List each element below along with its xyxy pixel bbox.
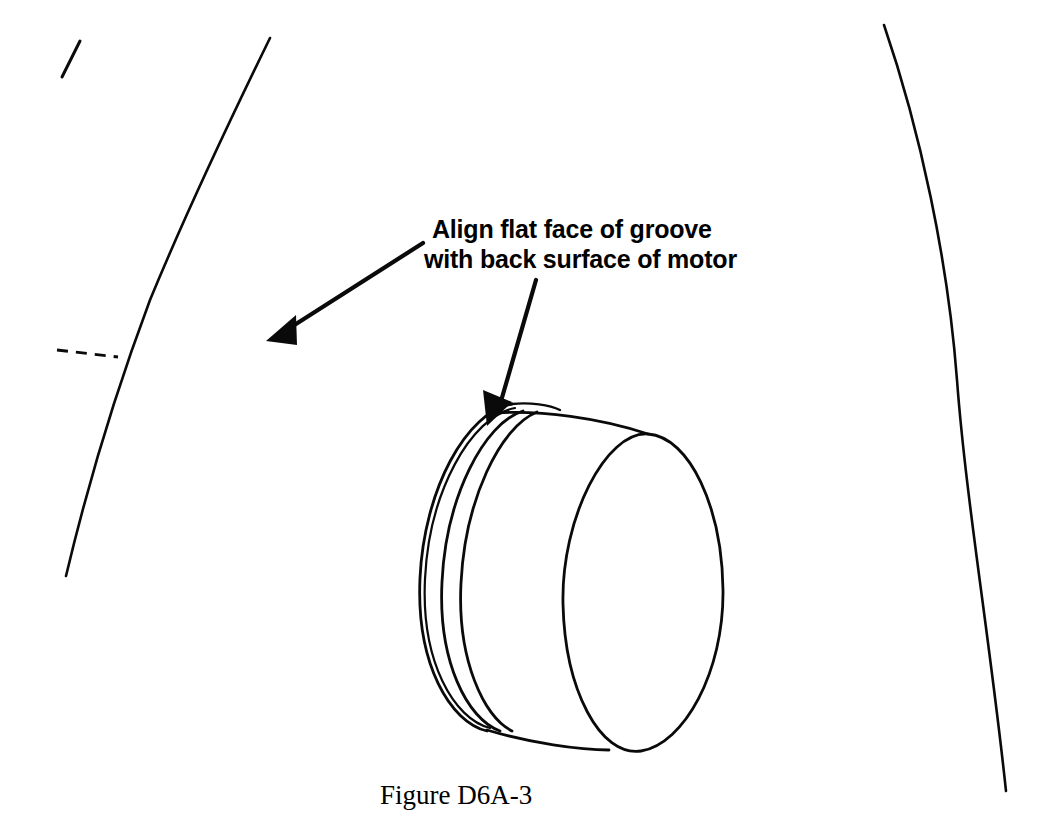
arrow-to-motor-back-surface xyxy=(266,243,423,345)
annotation-line-1: Align flat face of groove xyxy=(432,214,712,244)
motor-tick-mark xyxy=(62,41,80,77)
figure-page: Align flat face of groove with back surf… xyxy=(0,0,1053,823)
motor-body-right-outline xyxy=(884,25,1006,791)
motor-body-left-outline xyxy=(66,38,270,576)
annotation-line-2: with back surface of motor xyxy=(424,244,737,274)
motor-centerline-dash xyxy=(57,350,118,357)
groove-arc-outer xyxy=(420,404,512,731)
collar-front-face xyxy=(563,434,723,751)
collar-bottom-edge xyxy=(487,730,609,750)
groove-arc-inner xyxy=(461,412,537,731)
motor-housing-outlines xyxy=(62,25,1006,791)
groove-arc-outer-shadow xyxy=(425,408,515,728)
groove-top-connector xyxy=(512,403,560,410)
technical-drawing-canvas xyxy=(0,0,1053,823)
figure-caption: Figure D6A-3 xyxy=(380,779,532,811)
groove-arc-middle xyxy=(442,411,523,731)
collar-cylinder xyxy=(420,403,723,751)
arrowhead-motor xyxy=(266,315,297,345)
